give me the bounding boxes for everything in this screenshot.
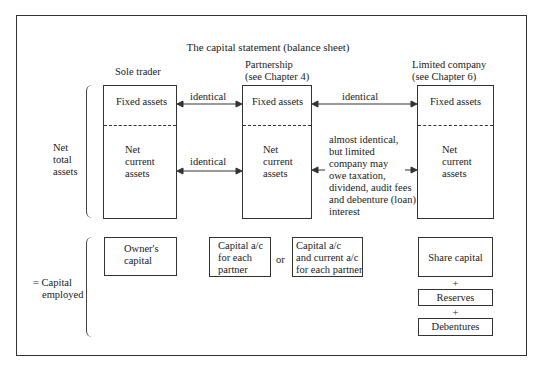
partner-cc-line-3: for each partner (296, 264, 362, 276)
partner-cc-line-1: Capital a/c (296, 240, 341, 252)
partner-capital-line-1: Capital a/c (218, 240, 263, 252)
debentures-box: Debentures (418, 318, 493, 336)
reserves-box: Reserves (418, 289, 493, 306)
partner-capital-line-3: partner (218, 264, 248, 276)
share-capital-box: Share capital (418, 237, 493, 277)
owners-capital-line-2: capital (124, 255, 152, 267)
nca-note-line-3: company may (329, 158, 388, 170)
nca-note-line-7: interest (329, 206, 360, 218)
nca-note-line-2: but limited (329, 146, 375, 158)
nca-note-line-5: dividend, audit fees (329, 182, 412, 194)
partner-capital-current-box: Capital a/c and current a/c for each par… (292, 237, 363, 277)
reserves-label: Reserves (419, 292, 492, 304)
or-label: or (276, 254, 285, 266)
partner-capital-line-2: for each (218, 252, 252, 264)
partner-capital-box: Capital a/c for each partner (209, 237, 271, 277)
owners-capital-line-1: Owner's (124, 243, 159, 255)
arrow-label-nca-st-pt: identical (190, 156, 226, 168)
share-capital-label: Share capital (419, 252, 492, 264)
nca-note-line-4: owe taxation, (329, 170, 386, 182)
debentures-label: Debentures (419, 321, 492, 333)
nca-note-line-1: almost identical, (329, 134, 398, 146)
partner-cc-line-2: and current a/c (296, 252, 358, 264)
arrow-label-fixed-st-pt: identical (190, 91, 226, 103)
arrow-label-fixed-pt-ltd: identical (342, 91, 378, 103)
owners-capital-box: Owner's capital (104, 237, 177, 276)
nca-note-line-6: and debenture (loan) (329, 194, 416, 206)
